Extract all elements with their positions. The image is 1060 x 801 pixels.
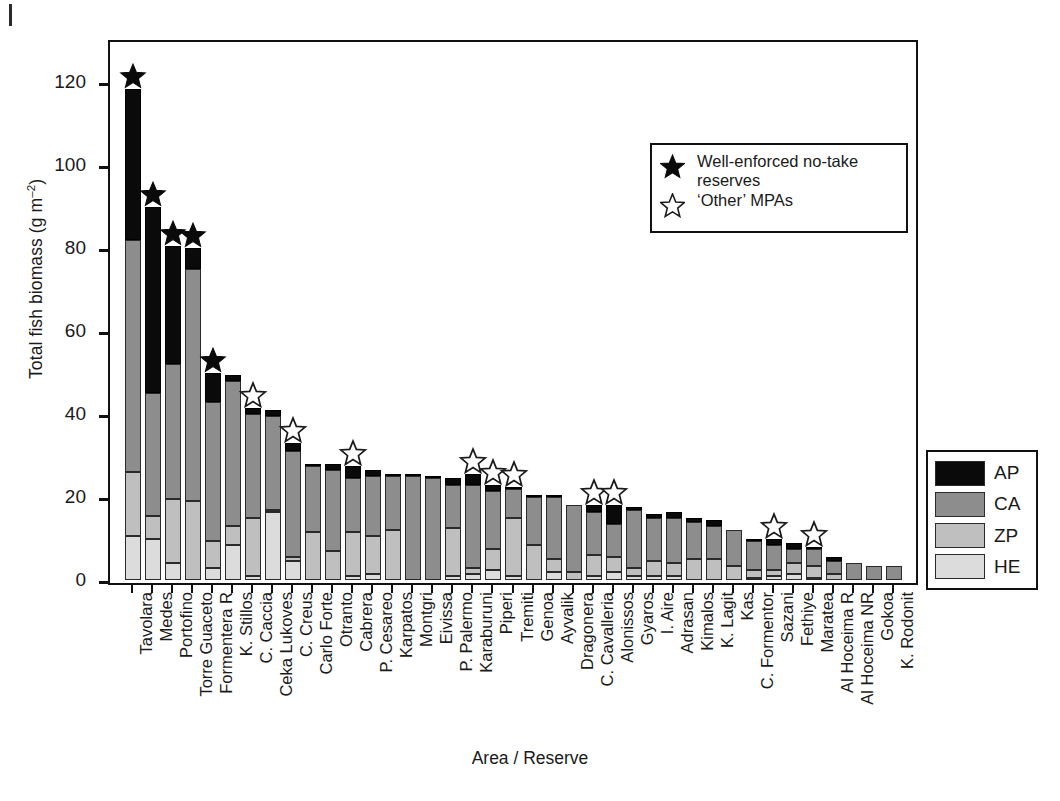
bar-segment-ap bbox=[305, 464, 321, 466]
bar-segment-he bbox=[666, 576, 682, 580]
bar-segment-ap bbox=[245, 408, 261, 414]
bar-segment-ap bbox=[626, 507, 642, 509]
bar-segment-zp bbox=[686, 559, 702, 580]
bar-segment-ca bbox=[165, 364, 181, 499]
bar-segment-zp bbox=[245, 518, 261, 576]
bar-segment-zp bbox=[485, 549, 501, 570]
bar-segment-ap bbox=[325, 464, 341, 470]
x-tick-label: Carlo Forte bbox=[317, 592, 336, 675]
bar bbox=[566, 505, 582, 580]
bar-segment-ca bbox=[465, 485, 481, 568]
bar bbox=[726, 530, 742, 580]
bar bbox=[786, 543, 802, 580]
bar-segment-zp bbox=[345, 532, 361, 576]
legend-swatch-ap bbox=[935, 461, 985, 486]
bar-segment-ap bbox=[546, 495, 562, 497]
x-tick-label: Montgri bbox=[417, 592, 436, 647]
bar-segment-ap bbox=[365, 470, 381, 476]
bar-segment-ap bbox=[225, 375, 241, 381]
bar-segment-ap bbox=[806, 547, 822, 549]
bar-segment-he bbox=[606, 572, 622, 580]
x-tick-label: C. Caccia bbox=[257, 592, 276, 664]
bar-segment-ca bbox=[205, 402, 221, 541]
bar-segment-he bbox=[165, 563, 181, 580]
bar-segment-zp bbox=[385, 530, 401, 580]
bar-segment-ap bbox=[185, 248, 201, 269]
x-tick-label: K. Stillos bbox=[237, 592, 256, 656]
bar-segment-ap bbox=[826, 557, 842, 561]
x-tick-mark bbox=[752, 585, 754, 593]
bar bbox=[325, 464, 341, 580]
x-tick-label: Torre Guaceto bbox=[197, 592, 216, 697]
x-tick-label: Karaburuni bbox=[477, 592, 496, 673]
bar-segment-ca bbox=[846, 563, 862, 580]
bar bbox=[405, 474, 421, 580]
bar bbox=[666, 512, 682, 580]
x-tick-label: C. Formentor bbox=[758, 592, 777, 689]
bar bbox=[205, 373, 221, 580]
bar-segment-ca bbox=[445, 485, 461, 529]
bar-segment-ap bbox=[205, 373, 221, 402]
x-tick-label: K. Rodonit bbox=[898, 592, 917, 669]
x-tick-mark bbox=[732, 585, 734, 593]
bar-segment-ap bbox=[746, 539, 762, 541]
bar-segment-he bbox=[806, 578, 822, 580]
x-tick-mark bbox=[532, 585, 534, 593]
bar bbox=[586, 505, 602, 580]
x-tick-mark bbox=[572, 585, 574, 593]
bar bbox=[706, 520, 722, 580]
bar bbox=[846, 563, 862, 580]
x-tick-label: Ceka Lukoves bbox=[277, 592, 296, 697]
bar-segment-he bbox=[345, 576, 361, 580]
x-tick-label: Al Hoceima NR bbox=[858, 592, 877, 705]
bar-segment-ca bbox=[425, 478, 441, 580]
bar bbox=[185, 248, 201, 580]
x-tick-mark bbox=[632, 585, 634, 593]
bar-segment-ap bbox=[646, 514, 662, 518]
x-tick-mark bbox=[512, 585, 514, 593]
bar-segment-ap bbox=[285, 443, 301, 451]
x-tick-mark bbox=[652, 585, 654, 593]
bar-segment-zp bbox=[285, 557, 301, 561]
bar bbox=[165, 246, 181, 580]
bar-segment-ca bbox=[646, 518, 662, 562]
bar-segment-he bbox=[746, 578, 762, 580]
x-tick-label: Al Hoceima R bbox=[838, 592, 857, 693]
bar-segment-zp bbox=[325, 551, 341, 580]
bar bbox=[606, 505, 622, 580]
figure-page: Total fish biomass (g m–2) 0204060801001… bbox=[0, 0, 1060, 801]
x-tick-label: Portofino bbox=[177, 592, 196, 658]
bar-segment-zp bbox=[726, 566, 742, 581]
bar-segment-ca bbox=[866, 566, 882, 581]
bar bbox=[806, 547, 822, 580]
bar bbox=[425, 476, 441, 580]
bar-segment-ca bbox=[505, 489, 521, 518]
bar bbox=[626, 507, 642, 580]
bar-segment-ap bbox=[265, 410, 281, 416]
bar-segment-ca bbox=[145, 393, 161, 515]
bar bbox=[686, 518, 702, 580]
x-tick-label: Karpatos bbox=[397, 592, 416, 658]
bar-segment-zp bbox=[445, 528, 461, 576]
bar-segment-zp bbox=[365, 536, 381, 573]
bar bbox=[285, 443, 301, 580]
bars-group bbox=[110, 42, 916, 583]
legend-swatch-he bbox=[935, 554, 985, 579]
x-tick-label: Genoa bbox=[538, 592, 557, 642]
bar-segment-ca bbox=[706, 526, 722, 559]
bar-segment-he bbox=[485, 570, 501, 580]
x-tick-label: Piperi bbox=[497, 592, 516, 634]
bar-segment-zp bbox=[305, 532, 321, 580]
bar-segment-he bbox=[646, 576, 662, 580]
bar-segment-zp bbox=[626, 568, 642, 576]
x-tick-label: Sazani bbox=[778, 592, 797, 642]
bar bbox=[766, 539, 782, 580]
bar-segment-ca bbox=[726, 530, 742, 565]
bar-segment-ca bbox=[826, 561, 842, 573]
bar-segment-ap bbox=[686, 518, 702, 522]
bar-segment-he bbox=[465, 574, 481, 580]
bar-segment-ca bbox=[806, 549, 822, 566]
x-tick-mark bbox=[391, 585, 393, 593]
x-tick-label: Adrasan bbox=[678, 592, 697, 653]
bar-segment-zp bbox=[505, 518, 521, 576]
